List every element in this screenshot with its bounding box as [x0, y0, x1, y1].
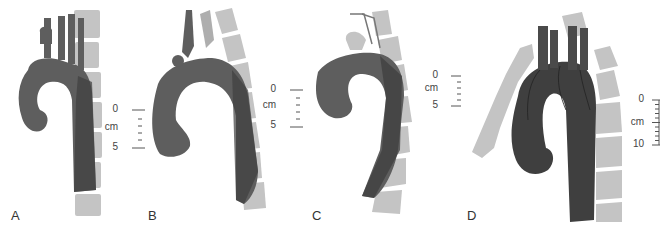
scale-top-label: 0: [638, 94, 644, 104]
aorta-figure: A B C D 0 cm 5 0 cm 5 0 cm 5 0 cm 10: [0, 0, 670, 227]
scale-bar-c: 0 cm 5: [420, 70, 454, 114]
scale-bottom-label: 5: [270, 120, 276, 130]
scale-bar-a: 0 cm 5: [100, 104, 134, 154]
scale-unit-label: cm: [631, 117, 644, 127]
scale-bar-d: 0 cm 10: [620, 94, 654, 152]
panel-d-illustration: [472, 12, 622, 222]
panel-label-c: C: [312, 208, 321, 223]
scale-bottom-label: 5: [112, 142, 118, 152]
scale-unit-label: cm: [425, 83, 438, 93]
scale-bottom-label: 10: [633, 139, 644, 149]
scale-bar-b: 0 cm 5: [258, 84, 292, 134]
panel-label-b: B: [148, 208, 157, 223]
panel-label-a: A: [11, 208, 20, 223]
panel-b-illustration: [152, 8, 266, 210]
scale-top-label: 0: [112, 104, 118, 114]
scale-top-label: 0: [432, 70, 438, 80]
scale-unit-label: cm: [105, 122, 118, 132]
scale-unit-label: cm: [263, 100, 276, 110]
arch-branches-c: [346, 14, 380, 50]
scale-top-label: 0: [270, 84, 276, 94]
panel-a-illustration: [19, 10, 102, 216]
panel-label-d: D: [467, 208, 476, 223]
scale-bottom-label: 5: [432, 100, 438, 110]
panel-c-illustration: [316, 10, 412, 214]
